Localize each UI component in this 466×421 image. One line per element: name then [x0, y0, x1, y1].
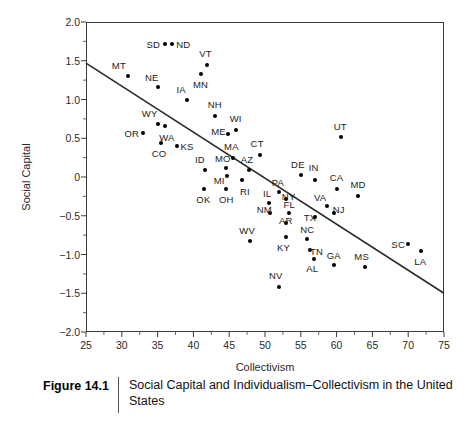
point-label-fl: FL	[284, 199, 296, 210]
data-point-me	[226, 132, 230, 136]
data-point-ca	[335, 187, 339, 191]
trendline-layer	[0, 0, 466, 421]
point-label-or: OR	[124, 127, 139, 138]
point-label-ne: NE	[145, 72, 159, 83]
point-label-ma: MA	[224, 141, 239, 152]
data-point-ms	[363, 265, 367, 269]
point-label-oh: OH	[219, 194, 234, 205]
point-label-nv: NV	[269, 270, 283, 281]
data-point-ok	[202, 187, 206, 191]
point-label-mi: MI	[214, 175, 225, 186]
data-point-oh	[224, 187, 228, 191]
point-label-ia: IA	[177, 84, 186, 95]
point-label-vt: VT	[199, 48, 212, 59]
data-point-ma	[231, 156, 235, 160]
point-label-ok: OK	[196, 194, 210, 205]
point-label-me: ME	[211, 126, 226, 137]
point-label-ms: MS	[354, 251, 369, 262]
data-point-id	[203, 168, 207, 172]
data-point-mn	[199, 72, 203, 76]
data-point-ri	[240, 178, 244, 182]
data-point-nv	[277, 285, 281, 289]
data-point-wv	[248, 239, 252, 243]
data-point-co	[159, 141, 163, 145]
point-label-sc: SC	[391, 238, 405, 249]
point-label-pa: PA	[272, 177, 284, 188]
point-label-ks: KS	[180, 141, 193, 152]
figure-number: Figure 14.1	[0, 377, 118, 393]
point-label-nd: ND	[176, 38, 190, 49]
data-point-va	[325, 204, 329, 208]
point-label-sd: SD	[146, 38, 160, 49]
point-label-wi: WI	[230, 113, 242, 124]
data-point-in	[313, 178, 317, 182]
data-point-ks	[175, 144, 179, 148]
data-point-pa	[277, 190, 281, 194]
point-label-md: MD	[350, 178, 365, 189]
point-label-mn: MN	[193, 79, 208, 90]
data-point-nh	[213, 114, 217, 118]
data-point-ut	[339, 135, 343, 139]
point-label-in: IN	[309, 161, 319, 172]
data-point-ky	[284, 235, 288, 239]
point-label-nj: NJ	[333, 203, 345, 214]
point-label-ga: GA	[327, 249, 341, 260]
data-point-wi	[234, 128, 238, 132]
point-label-ky: KY	[277, 241, 290, 252]
point-label-nm: NM	[257, 203, 272, 214]
data-point-ct	[258, 153, 262, 157]
point-label-la: LA	[414, 256, 426, 267]
data-point-ga	[332, 263, 336, 267]
point-label-il: IL	[263, 188, 271, 199]
point-label-de: DE	[291, 158, 305, 169]
point-label-wv: WV	[239, 225, 255, 236]
data-point-sd	[163, 42, 167, 46]
point-label-ct: CT	[251, 137, 264, 148]
figure-caption: Figure 14.1 Social Capital and Individua…	[0, 377, 466, 421]
point-label-ut: UT	[334, 120, 347, 131]
point-label-az: AZ	[241, 154, 254, 165]
point-label-ar: AR	[279, 215, 293, 226]
data-point-vt	[205, 63, 209, 67]
data-point-la	[419, 249, 423, 253]
data-point-wa	[163, 124, 167, 128]
data-point-wy	[156, 122, 160, 126]
caption-text: Social Capital and Individualism–Collect…	[119, 377, 466, 409]
data-point-mi	[225, 174, 229, 178]
point-label-va: VA	[314, 192, 326, 203]
point-label-id: ID	[195, 154, 205, 165]
point-label-mt: MT	[112, 59, 126, 70]
point-label-al: AL	[306, 263, 318, 274]
data-point-ne	[156, 85, 160, 89]
data-point-nd	[170, 42, 174, 46]
data-point-nc	[305, 237, 309, 241]
data-point-al	[312, 257, 316, 261]
point-label-mo: MO	[215, 153, 231, 164]
data-point-mo	[224, 166, 228, 170]
point-label-nc: NC	[300, 223, 314, 234]
data-point-md	[356, 194, 360, 198]
data-point-mt	[126, 74, 130, 78]
data-point-ia	[185, 98, 189, 102]
point-label-ca: CA	[330, 172, 344, 183]
figure-container: Social Capital Collectivism 2.01.51.00.5…	[0, 0, 466, 421]
data-point-or	[141, 131, 145, 135]
point-label-co: CO	[152, 147, 167, 158]
point-label-tn: TN	[310, 246, 323, 257]
point-label-wy: WY	[142, 108, 158, 119]
data-point-sc	[406, 242, 410, 246]
point-label-nh: NH	[208, 99, 222, 110]
point-label-tx: TX	[304, 211, 317, 222]
data-point-az	[247, 168, 251, 172]
data-point-de	[299, 173, 303, 177]
point-label-ri: RI	[240, 185, 250, 196]
